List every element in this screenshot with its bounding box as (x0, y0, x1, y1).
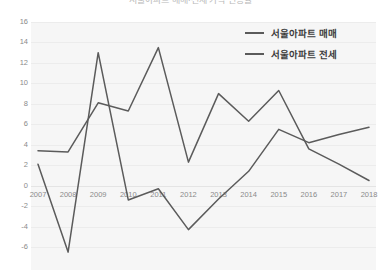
y-axis-tick-label: 2 (2, 161, 28, 169)
y-axis-tick-label: -4 (2, 223, 28, 231)
gridline (31, 227, 376, 228)
y-axis-tick-label: 16 (2, 18, 28, 26)
gridline (31, 124, 376, 125)
y-axis-tick-label: -6 (2, 243, 28, 251)
line-chart: 서울아파트 매매·전세 가격 변동률 1614121086420-2-4-6 2… (0, 0, 381, 276)
gridline (31, 83, 376, 84)
x-axis-tick-label: 2017 (324, 191, 354, 199)
legend-item-jeonse[interactable]: 서울아파트 전세 (245, 43, 377, 64)
y-axis-tick-label: 12 (2, 59, 28, 67)
x-axis-tick-label: 2018 (354, 191, 381, 199)
x-axis-tick-label: 2011 (143, 191, 173, 199)
y-axis-tick-label: 14 (2, 38, 28, 46)
legend-item-maemae[interactable]: 서울아파트 매매 (245, 22, 377, 43)
gridline (31, 104, 376, 105)
chart-legend: 서울아파트 매매 서울아파트 전세 (245, 22, 377, 64)
gridline (31, 165, 376, 166)
x-axis-tick-label: 2008 (53, 191, 83, 199)
legend-swatch-icon (245, 53, 264, 55)
gridline (31, 247, 376, 248)
legend-swatch-icon (245, 32, 264, 34)
gridline (31, 186, 376, 187)
y-axis-tick-label: 6 (2, 120, 28, 128)
legend-label-maemae: 서울아파트 매매 (271, 26, 337, 40)
x-axis-tick-label: 2012 (173, 191, 203, 199)
x-axis-tick-label: 2007 (23, 191, 53, 199)
chart-title: 서울아파트 매매·전세 가격 변동률 (0, 0, 381, 6)
x-axis-tick-label: 2009 (83, 191, 113, 199)
y-axis-tick-label: 8 (2, 100, 28, 108)
x-axis-tick-label: 2014 (234, 191, 264, 199)
x-axis-tick-label: 2013 (204, 191, 234, 199)
gridline (31, 206, 376, 207)
y-axis-tick-label: 4 (2, 141, 28, 149)
y-axis-tick-label: 0 (2, 182, 28, 190)
y-axis-tick-label: -2 (2, 202, 28, 210)
x-axis-tick-label: 2010 (113, 191, 143, 199)
x-axis-tick-label: 2015 (264, 191, 294, 199)
gridline (31, 145, 376, 146)
y-axis-tick-label: 10 (2, 79, 28, 87)
x-axis-tick-label: 2016 (294, 191, 324, 199)
legend-label-jeonse: 서울아파트 전세 (271, 47, 337, 61)
chart-title-clipped: 서울아파트 매매·전세 가격 변동률 (0, 0, 381, 9)
